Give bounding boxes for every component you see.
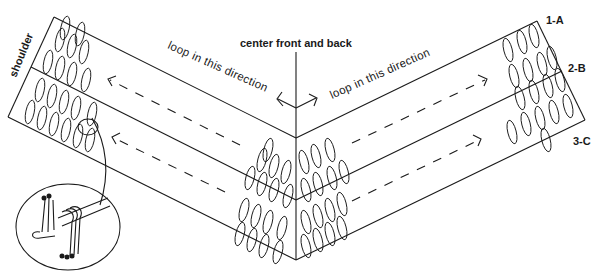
stitch-loop	[233, 221, 247, 246]
label-row-3c: 3-C	[573, 135, 591, 147]
stitch-loop	[267, 177, 281, 202]
stitch-loop	[47, 111, 60, 136]
stitch-loop	[69, 95, 82, 120]
stitch-loop	[65, 61, 78, 86]
stitch-loop	[299, 177, 313, 202]
stitch-loop	[261, 209, 275, 234]
stitch-loop	[337, 159, 351, 184]
stitch-loop	[311, 203, 325, 228]
stitch-loop	[79, 67, 92, 92]
stitch-loop	[275, 215, 289, 240]
stitch-loop	[261, 137, 275, 162]
stitch-loop	[311, 171, 325, 196]
stitch-loop	[323, 137, 337, 162]
dashed-direction-arrows	[108, 75, 487, 201]
stitch-loop	[77, 39, 90, 64]
stitch-loop	[83, 127, 96, 152]
label-right-direction: loop in this direction	[328, 46, 432, 101]
center-direction-arrows	[277, 92, 317, 108]
stitch-loop	[59, 117, 72, 142]
stitch-loop	[539, 127, 553, 152]
stitch-loop	[515, 29, 529, 54]
stitch-loop	[237, 197, 251, 222]
stitch-loop	[527, 23, 541, 48]
stitch-loop	[255, 147, 269, 172]
stitch-loop	[335, 215, 349, 240]
stitch-loop	[323, 221, 337, 246]
stitch-loop	[527, 79, 541, 104]
wrapped-loops	[62, 207, 81, 256]
stitch-loop	[53, 55, 66, 80]
stitch-loop	[561, 93, 575, 118]
label-shoulder: shoulder	[7, 31, 36, 79]
stitch-loop	[297, 149, 311, 174]
stitch-loop	[501, 37, 515, 62]
stitch-loop	[35, 105, 48, 130]
loop-strands	[42, 198, 54, 232]
v-strip-diagram: center front and back loop in this direc…	[0, 0, 597, 275]
stitch-loop	[323, 197, 337, 222]
stitch-loop	[73, 21, 86, 46]
stitch-loop	[521, 57, 535, 82]
stitch-loop	[255, 171, 269, 196]
stitch-loop	[45, 83, 58, 108]
stitch-loop	[507, 63, 521, 88]
stitch-loop	[553, 67, 567, 92]
stitch-loop	[243, 165, 257, 190]
stitch-loops	[23, 15, 575, 264]
stitch-loop	[33, 77, 46, 102]
stitch-loop	[41, 49, 54, 74]
stitch-loop	[249, 203, 263, 228]
stitch-loop	[533, 105, 547, 130]
stitch-loop	[505, 119, 519, 144]
hook-shaft	[58, 198, 110, 226]
stitch-loop	[299, 209, 313, 234]
stitch-loop	[279, 159, 293, 184]
stitch-loop	[267, 153, 281, 178]
stitch-loop	[23, 99, 36, 124]
detail-inset	[16, 118, 120, 270]
hook-tip	[33, 232, 56, 239]
stitch-loop	[325, 165, 339, 190]
stitch-loop	[309, 143, 323, 168]
stitch-loop	[547, 99, 561, 124]
stitch-loop	[541, 73, 555, 98]
stitch-loop	[65, 33, 78, 58]
label-row-1a: 1-A	[546, 14, 564, 26]
stitch-loop	[335, 191, 349, 216]
stitch-loop	[519, 111, 533, 136]
label-row-2b: 2-B	[568, 62, 586, 74]
label-center: center front and back	[240, 37, 353, 49]
stitch-loop	[57, 89, 70, 114]
stitch-loop	[271, 239, 285, 264]
left-bottom-edge	[8, 117, 296, 260]
